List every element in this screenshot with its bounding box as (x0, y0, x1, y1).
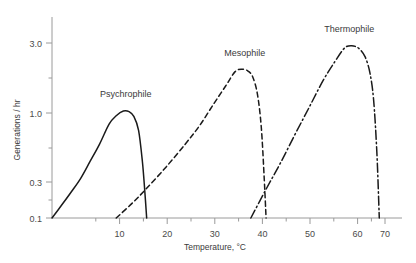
x-tick-label: 60 (353, 229, 363, 239)
series-label-thermophile: Thermophile (324, 24, 374, 34)
y-tick-label: 0.1 (29, 214, 42, 224)
x-tick-label: 40 (257, 229, 267, 239)
x-tick-label: 10 (115, 229, 125, 239)
series-label-psychrophile: Psychrophile (100, 89, 152, 99)
x-axis-title: Temperature, °C (184, 242, 246, 252)
x-tick-label: 30 (210, 229, 220, 239)
y-tick-label: 0.3 (29, 178, 42, 188)
y-tick-label: 3.0 (29, 39, 42, 49)
curve-psychrophile (52, 111, 147, 218)
y-tick-label: 1.0 (29, 109, 42, 119)
series-label-mesophile: Mesophile (224, 48, 265, 58)
x-tick-label: 50 (305, 229, 315, 239)
y-tick-labels: 3.0 1.0 0.3 0.1 (29, 39, 42, 224)
curve-thermophile (251, 46, 379, 218)
y-axis-title: Generations / hr (12, 99, 22, 160)
x-tick-label: 20 (162, 229, 172, 239)
growth-rate-chart: 3.0 1.0 0.3 0.1 10 20 30 40 50 60 70 Tem… (0, 0, 416, 263)
x-axis (52, 218, 402, 224)
y-axis (46, 17, 52, 218)
x-tick-labels: 10 20 30 40 50 60 70 (115, 229, 390, 239)
chart-canvas: 3.0 1.0 0.3 0.1 10 20 30 40 50 60 70 Tem… (0, 0, 416, 263)
x-tick-label: 70 (380, 229, 390, 239)
